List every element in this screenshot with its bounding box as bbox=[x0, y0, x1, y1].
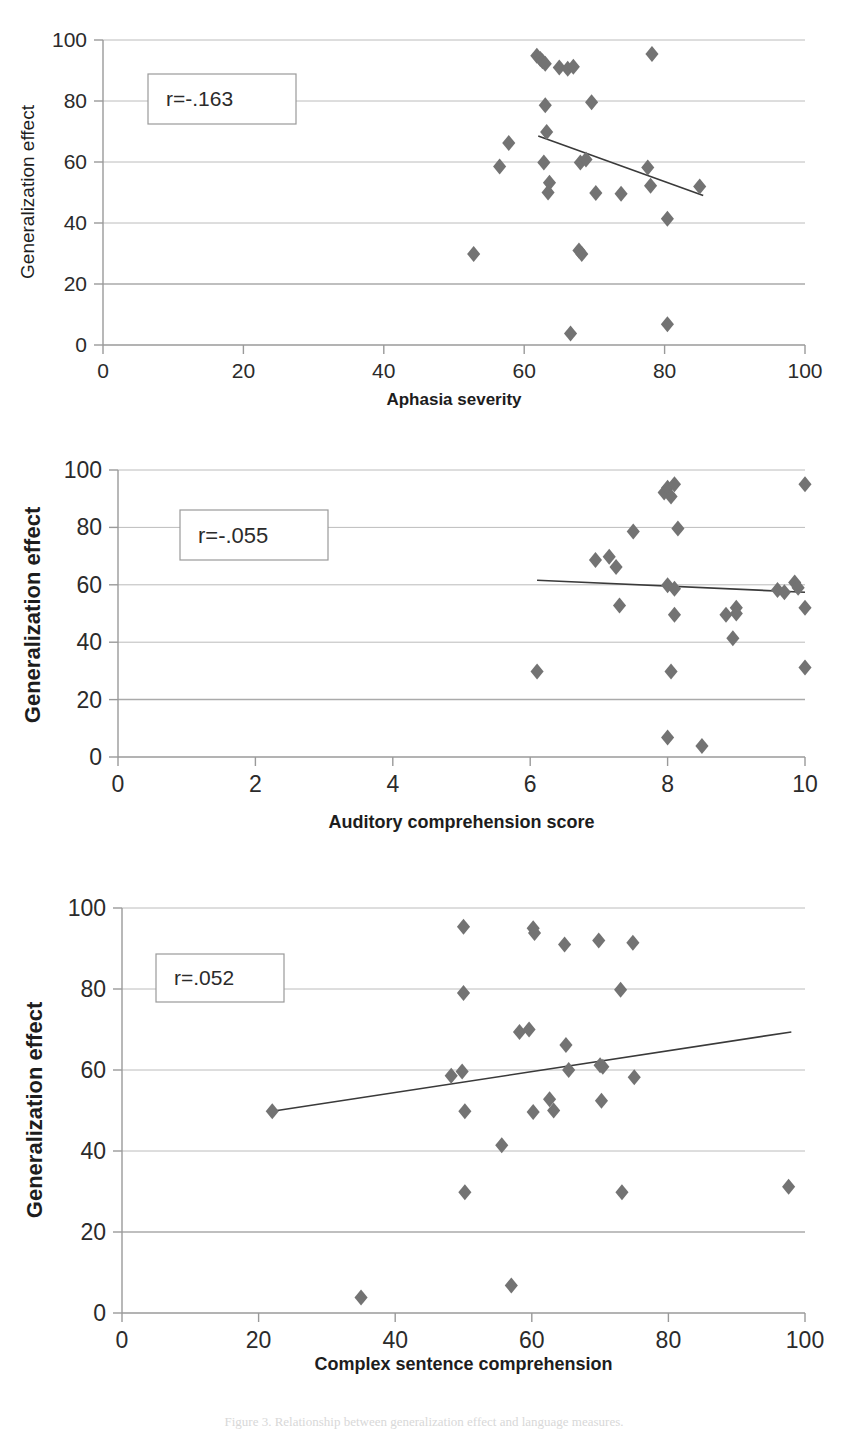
data-point-marker bbox=[726, 630, 739, 646]
y-tick-label: 40 bbox=[64, 211, 87, 234]
y-tick-label: 100 bbox=[64, 457, 102, 483]
x-tick-label: 60 bbox=[513, 359, 536, 382]
data-points bbox=[467, 46, 706, 341]
data-point-marker bbox=[527, 1104, 540, 1120]
y-tick-label: 20 bbox=[76, 687, 102, 713]
correlation-annotation: r=-.055 bbox=[180, 510, 328, 560]
x-axis-ticks: 0246810 bbox=[112, 757, 818, 797]
y-tick-label: 60 bbox=[64, 150, 87, 173]
y-tick-label: 0 bbox=[89, 744, 102, 770]
data-point-marker bbox=[614, 982, 627, 998]
x-axis-title: Auditory comprehension score bbox=[328, 812, 594, 832]
x-axis-title: Aphasia severity bbox=[386, 390, 522, 409]
x-tick-label: 60 bbox=[519, 1327, 545, 1353]
data-point-marker bbox=[558, 936, 571, 952]
chart-panel-2: 0204060801000246810Generalization effect… bbox=[0, 440, 848, 860]
y-tick-label: 80 bbox=[80, 976, 106, 1002]
x-axis-ticks: 020406080100 bbox=[116, 1313, 825, 1353]
y-axis-ticks: 020406080100 bbox=[52, 28, 103, 356]
data-point-marker bbox=[626, 935, 639, 951]
data-point-marker bbox=[589, 552, 602, 568]
x-axis-title: Complex sentence comprehension bbox=[314, 1354, 612, 1374]
data-point-marker bbox=[592, 932, 605, 948]
data-points bbox=[531, 476, 812, 754]
data-point-marker bbox=[531, 663, 544, 679]
data-point-marker bbox=[627, 523, 640, 539]
correlation-value: r=.052 bbox=[174, 966, 234, 989]
y-axis-title: Generalization effect bbox=[22, 1001, 47, 1218]
data-point-marker bbox=[266, 1103, 279, 1119]
data-point-marker bbox=[537, 155, 550, 171]
data-point-marker bbox=[505, 1277, 518, 1293]
data-point-marker bbox=[671, 521, 684, 537]
data-point-marker bbox=[661, 211, 674, 227]
y-tick-label: 40 bbox=[76, 629, 102, 655]
y-tick-label: 80 bbox=[76, 514, 102, 540]
x-tick-label: 6 bbox=[524, 771, 537, 797]
y-axis-title: Generalization effect bbox=[17, 104, 38, 279]
data-point-marker bbox=[457, 919, 470, 935]
x-tick-label: 80 bbox=[656, 1327, 682, 1353]
data-point-marker bbox=[615, 186, 628, 202]
data-point-marker bbox=[559, 1037, 572, 1053]
data-point-marker bbox=[562, 1062, 575, 1078]
data-point-marker bbox=[458, 1103, 471, 1119]
data-point-marker bbox=[458, 1184, 471, 1200]
data-point-marker bbox=[456, 1064, 469, 1080]
data-point-marker bbox=[661, 316, 674, 332]
x-tick-label: 20 bbox=[246, 1327, 272, 1353]
y-tick-label: 20 bbox=[64, 272, 87, 295]
data-point-marker bbox=[523, 1022, 536, 1038]
chart-auditory-comprehension: 0204060801000246810Generalization effect… bbox=[0, 440, 848, 860]
data-point-marker bbox=[539, 97, 552, 113]
y-axis-title: Generalization effect bbox=[20, 506, 45, 723]
plot-area-1: 020406080100020406080100Generalization e… bbox=[0, 0, 848, 440]
data-point-marker bbox=[644, 178, 657, 194]
x-tick-label: 2 bbox=[249, 771, 262, 797]
y-axis-ticks: 020406080100 bbox=[64, 457, 118, 770]
x-tick-label: 4 bbox=[386, 771, 399, 797]
data-point-marker bbox=[467, 246, 480, 262]
correlation-annotation: r=-.163 bbox=[148, 74, 296, 124]
y-tick-label: 40 bbox=[80, 1138, 106, 1164]
plot-area-2: 0204060801000246810Generalization effect… bbox=[0, 440, 848, 860]
data-point-marker bbox=[615, 1184, 628, 1200]
x-tick-label: 0 bbox=[97, 359, 109, 382]
data-point-marker bbox=[613, 597, 626, 613]
correlation-annotation: r=.052 bbox=[156, 954, 284, 1002]
data-point-marker bbox=[589, 185, 602, 201]
data-point-marker bbox=[668, 607, 681, 623]
data-point-marker bbox=[645, 46, 658, 62]
y-tick-label: 100 bbox=[68, 895, 106, 921]
chart-panel-3: 020406080100020406080100Generalization e… bbox=[0, 880, 848, 1380]
chart-aphasia-severity: 020406080100020406080100Generalization e… bbox=[0, 0, 848, 440]
x-tick-label: 0 bbox=[112, 771, 125, 797]
data-point-marker bbox=[664, 663, 677, 679]
correlation-value: r=-.055 bbox=[198, 523, 268, 548]
x-tick-label: 40 bbox=[382, 1327, 408, 1353]
data-point-marker bbox=[493, 159, 506, 175]
data-point-marker bbox=[513, 1024, 526, 1040]
trendline bbox=[272, 1032, 791, 1111]
data-point-marker bbox=[661, 729, 674, 745]
y-tick-label: 0 bbox=[75, 333, 87, 356]
y-tick-label: 80 bbox=[64, 89, 87, 112]
plot-area-3: 020406080100020406080100Generalization e… bbox=[0, 880, 848, 1380]
data-point-marker bbox=[595, 1093, 608, 1109]
x-tick-label: 100 bbox=[787, 359, 822, 382]
x-axis-ticks: 020406080100 bbox=[97, 345, 822, 382]
chart-panel-1: 020406080100020406080100Generalization e… bbox=[0, 0, 848, 440]
data-point-marker bbox=[354, 1290, 367, 1306]
data-points bbox=[266, 919, 795, 1306]
x-tick-label: 8 bbox=[661, 771, 674, 797]
y-tick-label: 60 bbox=[76, 572, 102, 598]
data-point-marker bbox=[564, 325, 577, 341]
data-point-marker bbox=[719, 607, 732, 623]
data-point-marker bbox=[502, 135, 515, 151]
figure-caption: Figure 3. Relationship between generaliz… bbox=[0, 1414, 848, 1435]
data-point-marker bbox=[542, 185, 555, 201]
figure-page: 020406080100020406080100Generalization e… bbox=[0, 0, 848, 1435]
y-tick-label: 20 bbox=[80, 1219, 106, 1245]
x-tick-label: 40 bbox=[372, 359, 395, 382]
data-point-marker bbox=[798, 659, 811, 675]
